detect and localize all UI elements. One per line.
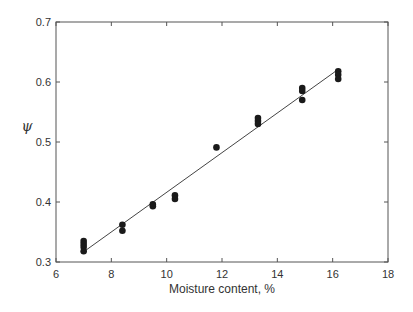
x-tick-label: 10 — [161, 268, 173, 280]
y-tick-label: 0.4 — [36, 196, 51, 208]
y-tick-label: 0.3 — [36, 256, 51, 268]
data-point — [119, 222, 126, 229]
y-axis-label: ψ — [22, 118, 34, 134]
data-point — [255, 121, 262, 128]
data-point — [172, 196, 179, 203]
data-point — [335, 76, 342, 83]
scatter-chart: 681012141618 0.30.40.50.60.7 Moisture co… — [0, 0, 413, 312]
plot-frame — [56, 22, 388, 262]
data-point — [299, 88, 306, 95]
y-tick-labels: 0.30.40.50.60.7 — [36, 16, 51, 268]
y-tick-label: 0.6 — [36, 76, 51, 88]
data-point — [213, 144, 220, 151]
axis-ticks — [56, 22, 388, 262]
x-tick-label: 12 — [216, 268, 228, 280]
data-point — [80, 248, 87, 255]
x-tick-label: 16 — [327, 268, 339, 280]
x-tick-label: 8 — [108, 268, 114, 280]
x-axis-label: Moisture content, % — [169, 282, 275, 296]
x-tick-label: 18 — [382, 268, 394, 280]
data-point — [119, 228, 126, 235]
data-point — [299, 97, 306, 104]
x-tick-label: 6 — [53, 268, 59, 280]
y-tick-label: 0.7 — [36, 16, 51, 28]
x-tick-labels: 681012141618 — [53, 268, 394, 280]
y-tick-label: 0.5 — [36, 136, 51, 148]
x-tick-label: 14 — [271, 268, 283, 280]
data-point — [150, 203, 157, 210]
